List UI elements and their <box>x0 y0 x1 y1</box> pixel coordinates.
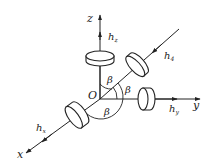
beta-label-z-skew: β <box>106 74 113 85</box>
reaction-wheel-diagram: z hz h4 y hy x hx O β β β <box>0 0 212 168</box>
y-reaction-wheel <box>138 88 165 110</box>
h4-label: h4 <box>164 50 174 62</box>
y-axis-label: y <box>192 99 200 112</box>
origin-label: O <box>88 89 97 102</box>
beta-label-skew-x: β <box>103 106 110 117</box>
hz-label: hz <box>108 31 118 43</box>
hx-label: hx <box>36 122 46 134</box>
hy-label: hy <box>169 103 179 116</box>
beta-label-skew-y: β <box>124 84 131 95</box>
arc-skew-y <box>113 87 117 99</box>
x-reaction-wheel <box>62 99 92 131</box>
x-axis-label: x <box>17 148 24 161</box>
z-axis-label: z <box>86 12 93 25</box>
